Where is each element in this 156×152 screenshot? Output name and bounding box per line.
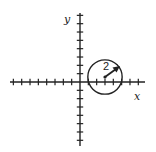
radius-label: 2 — [103, 60, 109, 72]
y-axis-label: y — [63, 13, 71, 26]
coordinate-plane-diagram: y x 2 — [0, 0, 156, 152]
x-axis-label: x — [134, 90, 141, 103]
